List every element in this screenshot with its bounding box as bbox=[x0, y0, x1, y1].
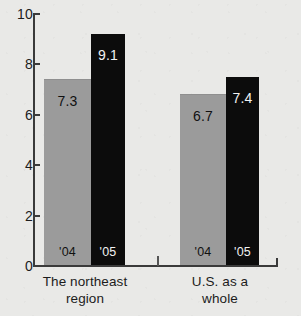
group-label-line-2: whole bbox=[170, 291, 270, 308]
bar-us-2004[interactable]: 6.7 '04 bbox=[180, 94, 226, 265]
y-tick-label-10: 10 bbox=[17, 7, 33, 21]
x-axis-baseline bbox=[33, 265, 278, 267]
y-tick-4 bbox=[33, 164, 40, 166]
plot-area: 10 8 6 4 2 0 7.3 '04 9.1 '05 6.7 '04 7.4… bbox=[0, 0, 301, 316]
bar-northeast-2005[interactable]: 9.1 '05 bbox=[91, 34, 125, 265]
group-label-us: U.S. as a whole bbox=[170, 274, 270, 308]
bar-value-label: 7.3 bbox=[44, 94, 91, 108]
y-tick-8 bbox=[33, 63, 40, 65]
bar-value-label: 7.4 bbox=[226, 91, 259, 105]
y-tick-6 bbox=[33, 114, 40, 116]
y-tick-label-4: 4 bbox=[25, 158, 33, 172]
group-label-line-1: The northeast bbox=[30, 274, 140, 291]
y-tick-10 bbox=[33, 13, 40, 15]
y-axis-line bbox=[33, 13, 35, 267]
y-tick-label-2: 2 bbox=[25, 209, 33, 223]
bar-chart: 10 8 6 4 2 0 7.3 '04 9.1 '05 6.7 '04 7.4… bbox=[0, 0, 301, 316]
group-label-line-1: U.S. as a bbox=[170, 274, 270, 291]
bar-value-label: 6.7 bbox=[180, 109, 226, 123]
y-tick-label-0: 0 bbox=[25, 259, 33, 273]
bar-northeast-2004[interactable]: 7.3 '04 bbox=[44, 79, 91, 265]
bar-year-label: '05 bbox=[91, 246, 125, 259]
y-tick-label-6: 6 bbox=[25, 108, 33, 122]
group-separator-tick bbox=[157, 256, 159, 266]
bar-value-label: 9.1 bbox=[91, 48, 125, 62]
y-tick-0 bbox=[33, 265, 40, 267]
group-label-line-2: region bbox=[30, 291, 140, 308]
x-axis-end-cap bbox=[276, 258, 278, 267]
bar-year-label: '04 bbox=[44, 246, 91, 259]
group-label-northeast: The northeast region bbox=[30, 274, 140, 308]
bar-year-label: '05 bbox=[226, 246, 259, 259]
bar-us-2005[interactable]: 7.4 '05 bbox=[226, 77, 259, 265]
y-tick-label-8: 8 bbox=[25, 57, 33, 71]
bar-year-label: '04 bbox=[180, 246, 226, 259]
y-tick-2 bbox=[33, 215, 40, 217]
